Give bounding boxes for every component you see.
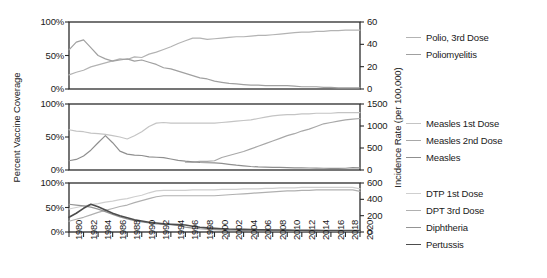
x-tick-label: 1996 — [189, 220, 200, 240]
legend-swatch — [406, 140, 421, 141]
legend-label: DPT 3rd Dose — [426, 205, 484, 216]
y-tick-label-right: 40 — [367, 38, 377, 49]
legend-swatch — [406, 157, 421, 158]
x-tick-label: 2010 — [291, 220, 302, 240]
y-axis-title-right: Incidence Rate (per 100,000) — [392, 58, 403, 198]
y-tick-label-right: 500 — [367, 142, 382, 153]
y-tick-label-right: 0 — [367, 83, 372, 94]
series-line — [69, 113, 360, 139]
legend-label: Pertussis — [426, 239, 464, 250]
x-tick-label: 1998 — [204, 220, 215, 240]
x-tick-label: 1992 — [160, 220, 171, 240]
legend-swatch — [406, 210, 421, 211]
y-tick-label-left: 50% — [18, 202, 64, 213]
y-tick-label-left: 100% — [18, 177, 64, 188]
legend-label: Measles 1st Dose — [426, 118, 499, 129]
x-tick-label: 2000 — [219, 220, 230, 240]
y-tick-label-left: 50% — [18, 50, 64, 61]
series-line — [69, 190, 360, 221]
y-tick-label-right: 200 — [367, 210, 382, 221]
y-tick-label-right: 1000 — [367, 120, 387, 131]
y-tick-label-left: 100% — [18, 98, 64, 109]
x-tick-label: 2002 — [233, 220, 244, 240]
y-tick-label-right: 1500 — [367, 98, 387, 109]
legend-label: Diphtheria — [426, 222, 468, 233]
y-tick-label-right: 400 — [367, 193, 382, 204]
x-tick-label: 2004 — [248, 220, 259, 240]
x-tick-label: 1986 — [117, 220, 128, 240]
y-tick-label-right: 60 — [367, 16, 377, 27]
series-line — [185, 119, 360, 163]
x-tick-label: 2014 — [320, 220, 331, 240]
x-tick-label: 2006 — [262, 220, 273, 240]
y-tick-label-left: 0% — [18, 164, 64, 175]
legend-label: Measles — [426, 152, 460, 163]
x-tick-label: 2020 — [364, 220, 375, 240]
series-line — [69, 187, 360, 209]
legend-label: Measles 2nd Dose — [426, 135, 502, 146]
panel-frame — [69, 22, 360, 89]
x-tick-label: 1984 — [102, 220, 113, 240]
x-tick-label: 1982 — [88, 220, 99, 240]
legend-swatch — [406, 37, 421, 38]
x-tick-label: 2018 — [349, 220, 360, 240]
x-tick-label: 1980 — [73, 220, 84, 240]
y-tick-label-right: 0 — [367, 164, 372, 175]
legend-label: Poliomyelitis — [426, 49, 477, 60]
y-tick-label-right: 20 — [367, 61, 377, 72]
x-tick-label: 1990 — [146, 220, 157, 240]
legend-swatch — [406, 123, 421, 124]
x-tick-label: 1988 — [131, 220, 142, 240]
series-line — [69, 30, 360, 75]
legend-swatch — [406, 244, 421, 245]
legend-swatch — [406, 193, 421, 194]
series-line — [69, 136, 360, 169]
x-tick-label: 2008 — [277, 220, 288, 240]
x-tick-label: 1994 — [175, 220, 186, 240]
y-tick-label-left: 0% — [18, 226, 64, 237]
series-line — [69, 40, 360, 88]
y-tick-label-right: 600 — [367, 177, 382, 188]
panel-frame — [69, 104, 360, 170]
y-tick-label-left: 0% — [18, 83, 64, 94]
y-tick-label-left: 50% — [18, 131, 64, 142]
x-tick-label: 2012 — [306, 220, 317, 240]
vaccine-coverage-incidence-figure: Percent Vaccine Coverage Incidence Rate … — [0, 0, 547, 278]
x-tick-label: 2016 — [335, 220, 346, 240]
legend-swatch — [406, 227, 421, 228]
y-tick-label-left: 100% — [18, 16, 64, 27]
legend-label: Polio, 3rd Dose — [426, 32, 489, 43]
legend-swatch — [406, 54, 421, 55]
legend-label: DTP 1st Dose — [426, 188, 483, 199]
